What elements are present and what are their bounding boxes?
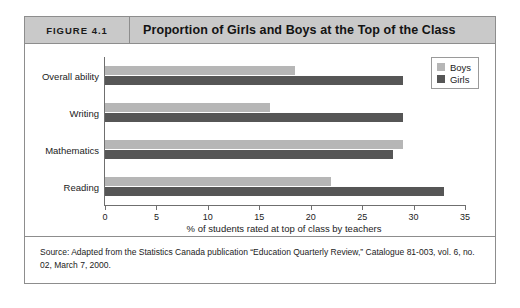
bar-girls-mathematics xyxy=(105,150,393,159)
x-axis-tick xyxy=(105,205,106,210)
legend-swatch-girls-icon xyxy=(437,75,445,83)
x-axis-tick-label: 25 xyxy=(357,212,367,222)
chart-legend: Boys Girls xyxy=(431,57,479,89)
x-axis-tick xyxy=(208,205,209,210)
x-axis-tick xyxy=(465,205,466,210)
x-axis-tick-label: 10 xyxy=(203,212,213,222)
legend-swatch-boys-icon xyxy=(437,63,445,71)
bar-boys-writing xyxy=(105,103,270,112)
x-axis-tick-label: 5 xyxy=(154,212,159,222)
x-axis-tick-label: 20 xyxy=(306,212,316,222)
x-axis-tick-label: 30 xyxy=(409,212,419,222)
y-axis-label: Reading xyxy=(25,181,99,192)
y-axis-label: Overall ability xyxy=(25,70,99,81)
y-axis-label: Mathematics xyxy=(25,144,99,155)
source-note: Source: Adapted from the Statistics Cana… xyxy=(40,246,480,271)
figure-container: FIGURE 4.1 Proportion of Girls and Boys … xyxy=(24,16,496,284)
x-axis-tick-label: 15 xyxy=(254,212,264,222)
y-axis-label: Writing xyxy=(25,107,99,118)
x-axis-tick-label: 0 xyxy=(102,212,107,222)
x-axis-tick xyxy=(362,205,363,210)
bar-girls-overall-ability xyxy=(105,76,403,85)
legend-item-girls: Girls xyxy=(437,73,471,85)
x-axis-tick-label: 35 xyxy=(460,212,470,222)
x-axis-tick xyxy=(259,205,260,210)
bar-girls-reading xyxy=(105,187,444,196)
chart-area: Overall abilityWritingMathematicsReading… xyxy=(25,45,495,251)
source-divider xyxy=(25,236,495,237)
figure-number: FIGURE 4.1 xyxy=(25,25,129,36)
figure-title: Proportion of Girls and Boys at the Top … xyxy=(130,23,456,37)
bar-boys-overall-ability xyxy=(105,66,295,75)
bar-boys-mathematics xyxy=(105,140,403,149)
bar-girls-writing xyxy=(105,113,403,122)
figure-header: FIGURE 4.1 Proportion of Girls and Boys … xyxy=(25,17,495,44)
legend-label-boys: Boys xyxy=(450,62,471,73)
x-axis-tick xyxy=(311,205,312,210)
plot-area: 05101520253035 xyxy=(104,57,465,206)
x-axis-title: % of students rated at top of class by t… xyxy=(104,223,464,234)
x-axis-tick xyxy=(414,205,415,210)
legend-item-boys: Boys xyxy=(437,61,471,73)
x-axis-tick xyxy=(156,205,157,210)
bar-boys-reading xyxy=(105,177,331,186)
y-axis-category-labels: Overall abilityWritingMathematicsReading xyxy=(25,57,99,205)
legend-label-girls: Girls xyxy=(450,74,470,85)
